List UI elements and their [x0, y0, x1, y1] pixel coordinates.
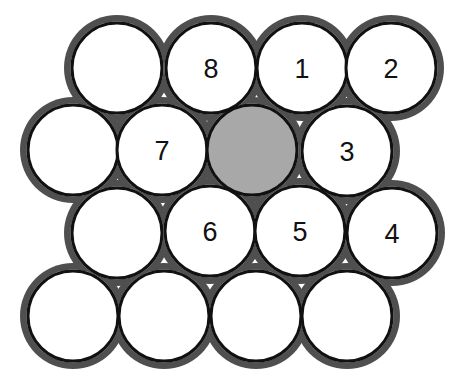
numbered-circle-3	[302, 106, 392, 196]
plain-circle	[211, 271, 301, 361]
circles-layer	[28, 23, 437, 361]
plain-circle	[119, 271, 209, 361]
plain-circle	[72, 188, 162, 278]
plain-circle	[28, 271, 118, 361]
plain-circle	[28, 105, 118, 195]
circle-packing-svg: 81273654	[0, 0, 455, 375]
circle-packing-figure: 81273654	[0, 0, 455, 375]
numbered-circle-4	[347, 188, 437, 278]
numbered-circle-5	[255, 186, 345, 276]
numbered-circle-1	[257, 23, 347, 113]
numbered-circle-6	[165, 186, 255, 276]
numbered-circle-2	[346, 23, 436, 113]
plain-circle	[72, 23, 162, 113]
plain-circle	[302, 271, 392, 361]
center-circle	[207, 105, 297, 195]
numbered-circle-7	[117, 105, 207, 195]
numbered-circle-8	[166, 23, 256, 113]
